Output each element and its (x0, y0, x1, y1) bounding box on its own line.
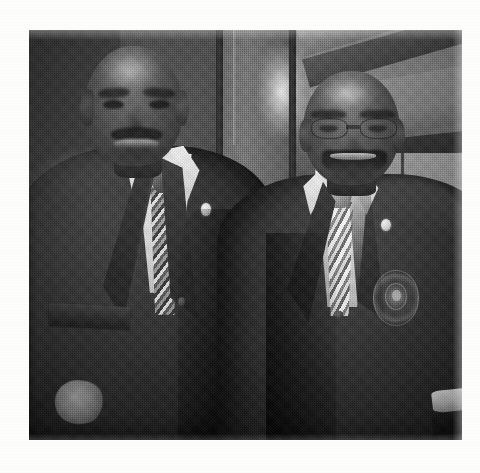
right-man-eyeglass-lens-right (360, 118, 397, 139)
right-man-eyeglass-lens-left (311, 118, 348, 139)
left-man-pocket-flap (49, 303, 131, 329)
left-man-forehead-highlight (100, 50, 159, 90)
left-man-sleeve-crease (33, 201, 49, 400)
right-man-jacket-front-shadow (266, 233, 336, 440)
right-man-eyeglass-bridge (346, 125, 359, 129)
left-man-chin-shadow (100, 148, 172, 168)
left-man-ear-right (175, 90, 188, 126)
right-man-jacket-button (336, 311, 343, 319)
two-men-in-suits-photograph (29, 30, 462, 440)
right-man-forehead-highlight (319, 77, 375, 110)
left-man-ear-left (80, 90, 93, 126)
right-man-crest-center (392, 290, 400, 300)
right-man-chin-shadow (319, 171, 389, 189)
scanned-page (0, 0, 480, 473)
left-man-jacket-button (178, 297, 185, 306)
subject-right-man (228, 71, 462, 440)
